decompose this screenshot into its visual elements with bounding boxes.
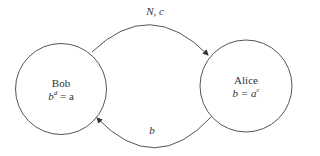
edge-bob-to-alice xyxy=(92,25,208,55)
bob-name: Bob xyxy=(36,77,86,89)
bob-equation: bd = a xyxy=(36,89,86,102)
alice-node-label: Alice b = ac xyxy=(221,74,271,99)
alice-equation: b = ac xyxy=(221,86,271,99)
bob-node-label: Bob bd = a xyxy=(36,77,86,102)
edge-label-b: b xyxy=(142,124,162,136)
alice-name: Alice xyxy=(221,74,271,86)
edge-label-n-c: N, c xyxy=(135,5,175,17)
